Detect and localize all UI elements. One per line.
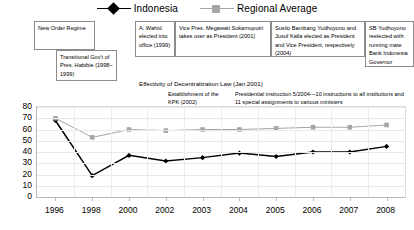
x-axis-tick <box>129 197 130 201</box>
annotation-text: Effectivity of Decentralization Law (Jan… <box>139 80 263 87</box>
annotation-text: Susilo Bambang Yudhoyono and Jusuf Kalla… <box>275 25 356 56</box>
line-chart: 01020304050607080 1996199820002002200320… <box>0 106 414 230</box>
annotation-text: Establishment of the KPK (2002) <box>168 91 219 105</box>
annotation-wahid-elected: A. Wahid elected into office (1999) <box>135 21 175 57</box>
x-axis-tick-label: 1998 <box>82 206 101 215</box>
y-axis-tick-label: 60 <box>2 124 32 133</box>
y-axis-tick-label: 0 <box>2 192 32 201</box>
annotation-text: Presidential instruction 5/2004—10 instr… <box>235 91 404 105</box>
annotation-text: Transitional Gov't of Pres. Habibie (199… <box>60 54 113 77</box>
x-axis-tick-label: 2006 <box>303 206 322 215</box>
annotation-decentralization-law: Effectivity of Decentralization Law (Jan… <box>139 79 319 89</box>
y-axis: 01020304050607080 <box>0 106 34 198</box>
annotation-kpk-establishment: Establishment of the KPK (2002) <box>168 90 230 106</box>
x-axis-tick-label: 2007 <box>339 206 358 215</box>
x-axis-tick <box>203 197 204 201</box>
annotation-text: Vice Pres. Megawati Sukarnoputri takes o… <box>179 25 263 39</box>
data-point-marker <box>274 154 279 159</box>
vertical-gridline <box>111 107 112 197</box>
x-axis-tick <box>166 197 167 201</box>
x-axis-tick-label: 2004 <box>229 206 248 215</box>
legend-item-regional-average: Regional Average <box>200 3 317 14</box>
y-axis-tick-label: 10 <box>2 181 32 190</box>
y-axis-tick-label: 80 <box>2 102 32 111</box>
legend-label-indonesia: Indonesia <box>134 3 178 14</box>
annotation-text: A. Wahid elected into office (1999) <box>139 25 170 48</box>
legend-item-indonesia: Indonesia <box>97 3 178 14</box>
vertical-gridline <box>221 107 222 197</box>
x-axis-tick-label: 2003 <box>192 206 211 215</box>
vertical-gridline <box>74 107 75 197</box>
data-point-marker <box>200 155 205 160</box>
chart-legend: Indonesia Regional Average <box>0 3 414 14</box>
x-axis-tick <box>387 197 388 201</box>
x-axis-tick <box>92 197 93 201</box>
y-axis-tick-label: 50 <box>2 136 32 145</box>
data-point-marker <box>90 135 95 140</box>
x-axis-tick <box>276 197 277 201</box>
diamond-marker-icon <box>97 3 131 14</box>
plot-area <box>36 106 406 198</box>
x-axis-tick <box>350 197 351 201</box>
vertical-gridline <box>147 107 148 197</box>
annotation-text: New Order Regime <box>38 25 86 31</box>
annotation-yudhoyono-reelected: SB Yudhoyono reelected with running mate… <box>365 21 414 67</box>
annotation-new-order-regime: New Order Regime <box>34 21 95 50</box>
chart-page: Indonesia Regional Average New Order Reg… <box>0 0 414 230</box>
annotation-text: SB Yudhoyono reelected with running mate… <box>369 25 408 67</box>
annotation-transitional-government: Transitional Gov't of Pres. Habibie (199… <box>56 50 117 81</box>
y-axis-tick-label: 30 <box>2 158 32 167</box>
x-axis-tick <box>313 197 314 201</box>
y-axis-tick-label: 20 <box>2 169 32 178</box>
vertical-gridline <box>295 107 296 197</box>
x-axis-tick-label: 2008 <box>376 206 395 215</box>
square-marker-icon <box>200 3 234 14</box>
vertical-gridline <box>331 107 332 197</box>
x-axis-tick-label: 1996 <box>45 206 64 215</box>
y-axis-tick-label: 70 <box>2 113 32 122</box>
x-axis-tick <box>55 197 56 201</box>
data-point-marker <box>384 144 389 149</box>
x-axis: 1996199820002002200320042005200620072008 <box>36 206 406 220</box>
annotation-yudhoyono-kalla-elected: Susilo Bambang Yudhoyono and Jusuf Kalla… <box>271 21 365 57</box>
x-axis-tick <box>239 197 240 201</box>
y-axis-tick-label: 40 <box>2 147 32 156</box>
vertical-gridline <box>184 107 185 197</box>
vertical-gridline <box>368 107 369 197</box>
annotation-megawati-president: Vice Pres. Megawati Sukarnoputri takes o… <box>175 21 271 57</box>
vertical-gridline <box>258 107 259 197</box>
data-point-marker <box>384 123 389 128</box>
legend-label-regional-average: Regional Average <box>237 3 317 14</box>
x-axis-tick-label: 2005 <box>266 206 285 215</box>
x-axis-tick-label: 2002 <box>155 206 174 215</box>
x-axis-tick-label: 2000 <box>119 206 138 215</box>
